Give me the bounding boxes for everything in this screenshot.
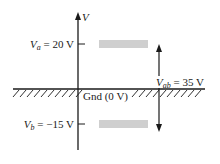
va-level-bar xyxy=(99,40,148,48)
ground-label: Gnd (0 V) xyxy=(83,90,130,102)
vab-double-arrow xyxy=(156,44,162,132)
axis-arrow-icon xyxy=(75,12,81,20)
vb-label: Vb = −15 V xyxy=(0,118,74,130)
vab-label: Vab = 35 V xyxy=(156,76,204,88)
voltage-axis xyxy=(75,12,81,150)
arrow-up-icon xyxy=(156,44,162,52)
vb-level-bar xyxy=(99,120,148,128)
va-label: Va = 20 V xyxy=(0,38,74,50)
axis-label: V xyxy=(82,11,89,23)
arrow-down-icon xyxy=(156,124,162,132)
